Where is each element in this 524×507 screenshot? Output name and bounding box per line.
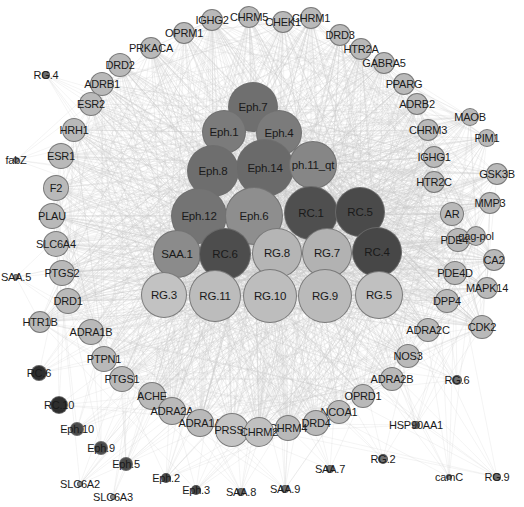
graph-node-rg-2[interactable] <box>378 454 388 464</box>
graph-node-hrh1[interactable] <box>62 118 86 142</box>
graph-node-ighg1[interactable] <box>423 146 445 168</box>
graph-node-dpp4[interactable] <box>435 289 459 313</box>
graph-node-eph-3[interactable] <box>191 485 201 495</box>
graph-node-chrm4[interactable] <box>275 415 301 441</box>
graph-node-chek1[interactable] <box>272 11 294 33</box>
graph-node-drd3[interactable] <box>329 24 351 46</box>
graph-node-gabra5[interactable] <box>373 52 395 74</box>
graph-node-chrm1[interactable] <box>300 7 322 29</box>
graph-node-htr2c[interactable] <box>423 171 445 193</box>
graph-node-gag-pol[interactable] <box>466 226 486 246</box>
graph-node-ptgs1[interactable] <box>109 366 135 392</box>
graph-node-rg-3[interactable] <box>141 272 187 318</box>
graph-node-ar[interactable] <box>440 202 464 226</box>
graph-node-eph-2[interactable] <box>161 473 171 483</box>
graph-node-ncoa1[interactable] <box>327 400 351 424</box>
graph-node-htr1b[interactable] <box>29 311 51 333</box>
graph-node-adra1a[interactable] <box>186 409 214 437</box>
graph-node-rg-9b[interactable] <box>493 473 501 481</box>
graph-node-rc-6b[interactable] <box>31 365 47 381</box>
graph-node-cdk2[interactable] <box>470 315 494 339</box>
graph-node-saa-9[interactable] <box>281 485 289 493</box>
graph-node-rg-10[interactable] <box>243 269 297 323</box>
graph-node-esr2[interactable] <box>79 92 103 116</box>
graph-node-ca2[interactable] <box>483 249 505 271</box>
graph-node-pparg[interactable] <box>393 73 415 95</box>
graph-node-pim1[interactable] <box>478 129 496 147</box>
graph-node-maob[interactable] <box>461 108 479 126</box>
graph-node-plau[interactable] <box>39 203 65 229</box>
graph-node-rc-10[interactable] <box>50 396 68 414</box>
graph-node-eph-9[interactable] <box>94 441 108 455</box>
graph-node-ptgs2[interactable] <box>49 260 75 286</box>
graph-node-eph-11-qt[interactable] <box>289 141 337 189</box>
graph-node-nos3[interactable] <box>396 344 420 368</box>
graph-node-rg-5[interactable] <box>355 271 403 319</box>
graph-node-mmp3[interactable] <box>479 192 501 214</box>
graph-node-oprd1[interactable] <box>351 384 375 408</box>
graph-node-adrb2[interactable] <box>406 93 428 115</box>
graph-node-mapk14[interactable] <box>476 277 498 299</box>
graph-node-chrm3[interactable] <box>417 119 439 141</box>
graph-node-drd4[interactable] <box>303 410 329 436</box>
graph-node-saa-5[interactable] <box>13 274 19 280</box>
graph-node-chrm2[interactable] <box>244 417 274 447</box>
graph-node-prkaca[interactable] <box>140 37 162 59</box>
graph-node-rc-4[interactable] <box>352 227 402 277</box>
graph-node-eph-5[interactable] <box>119 457 133 471</box>
node-layer: IGHG2CHRM5CHEK1CHRM1OPRM1DRD3PRKACAHTR2A… <box>0 0 524 507</box>
network-graph-canvas: IGHG2CHRM5CHEK1CHRM1OPRM1DRD3PRKACAHTR2A… <box>0 0 524 507</box>
graph-node-ighg2[interactable] <box>201 9 223 31</box>
graph-node-slc6a4[interactable] <box>43 231 69 257</box>
graph-node-camc[interactable] <box>446 474 452 480</box>
graph-node-pde4d[interactable] <box>443 261 467 285</box>
graph-node-fabz[interactable] <box>13 157 19 163</box>
graph-node-drd1[interactable] <box>55 288 81 314</box>
graph-node-rg-9[interactable] <box>298 269 352 323</box>
graph-node-adra2b[interactable] <box>380 367 404 391</box>
graph-node-drd2[interactable] <box>108 53 132 77</box>
graph-node-saa-7[interactable] <box>326 465 334 473</box>
graph-node-hsp90aa1[interactable] <box>412 421 420 429</box>
graph-node-f2[interactable] <box>43 175 69 201</box>
graph-node-eph-10[interactable] <box>70 422 84 436</box>
graph-node-oprm1[interactable] <box>173 22 195 44</box>
graph-node-saa-8[interactable] <box>237 488 245 496</box>
graph-node-chrm5[interactable] <box>238 6 260 28</box>
graph-node-adra1b[interactable] <box>78 319 104 345</box>
graph-node-slc6a3[interactable] <box>110 494 116 500</box>
graph-node-rg-11[interactable] <box>189 270 241 322</box>
graph-node-rg-4[interactable] <box>42 71 50 79</box>
graph-node-htr2a[interactable] <box>350 38 372 60</box>
graph-node-adra2a[interactable] <box>158 397 186 425</box>
graph-node-esr1[interactable] <box>48 143 74 169</box>
graph-node-rg-6[interactable] <box>452 375 462 385</box>
graph-node-slc6a2[interactable] <box>77 481 83 487</box>
graph-node-adra2c[interactable] <box>416 318 440 342</box>
graph-node-saa-1[interactable] <box>153 230 201 278</box>
graph-node-gsk3b[interactable] <box>486 163 508 185</box>
